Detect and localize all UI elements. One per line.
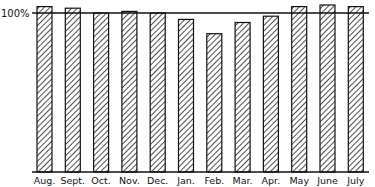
bar-apr: [263, 16, 278, 172]
x-label-nov: Nov.: [119, 175, 140, 186]
reference-line-label: 100%: [1, 8, 30, 19]
bar-dec: [150, 13, 165, 172]
x-label-dec: Dec.: [147, 175, 168, 186]
bar-jan: [179, 19, 194, 172]
x-label-may: May: [289, 175, 309, 186]
x-label-aug: Aug.: [34, 175, 56, 186]
bar-may: [292, 7, 307, 172]
x-label-feb: Feb.: [204, 175, 224, 186]
x-label-june: June: [316, 175, 338, 186]
x-label-apr: Apr.: [262, 175, 281, 186]
x-label-sept: Sept.: [60, 175, 85, 186]
x-label-mar: Mar.: [233, 175, 253, 186]
x-label-oct: Oct.: [91, 175, 110, 186]
bars-group: [37, 5, 363, 172]
x-axis-labels: Aug.Sept.Oct.Nov.Dec.Jan.Feb.Mar.Apr.May…: [34, 175, 365, 186]
x-label-july: July: [346, 175, 364, 186]
bar-sept: [65, 8, 80, 172]
bar-mar: [235, 23, 250, 173]
x-label-jan: Jan.: [176, 175, 195, 186]
bar-june: [320, 5, 335, 172]
bar-july: [348, 7, 363, 172]
bar-oct: [94, 13, 109, 172]
bar-aug: [37, 7, 52, 172]
bar-nov: [122, 11, 137, 172]
bar-feb: [207, 34, 222, 172]
bar-chart: 100% Aug.Sept.Oct.Nov.Dec.Jan.Feb.Mar.Ap…: [0, 0, 375, 187]
